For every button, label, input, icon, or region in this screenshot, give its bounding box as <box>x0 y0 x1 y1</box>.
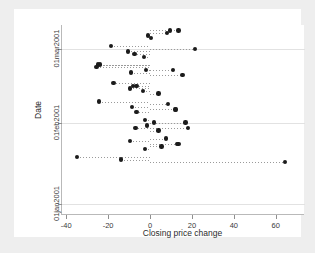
dropline <box>121 160 150 161</box>
dropline <box>131 73 150 74</box>
dropline <box>150 49 195 50</box>
dropline <box>132 107 150 108</box>
data-point <box>176 142 180 146</box>
data-point <box>109 44 113 48</box>
dropline <box>135 128 150 129</box>
x-tick <box>108 215 109 219</box>
dropline <box>97 67 150 68</box>
data-point <box>111 81 115 85</box>
dropline <box>99 102 150 103</box>
data-point <box>145 123 149 127</box>
data-point <box>166 102 170 106</box>
data-point <box>193 47 197 51</box>
data-point <box>97 99 101 103</box>
data-point <box>143 147 147 151</box>
data-point <box>174 107 178 111</box>
data-point <box>171 68 175 72</box>
data-point <box>156 128 160 132</box>
figure-canvas: 01jan200101feb200101mar2001 -40-20020406… <box>0 0 315 253</box>
data-point <box>186 126 190 130</box>
x-tick <box>66 215 67 219</box>
dropline <box>77 157 150 158</box>
data-point <box>75 155 79 159</box>
data-point <box>159 144 163 148</box>
dropline <box>150 162 285 163</box>
y-axis-title: Date <box>33 80 43 140</box>
data-point <box>142 55 146 59</box>
data-point <box>129 70 133 74</box>
dropline <box>130 88 150 89</box>
data-point <box>152 120 156 124</box>
x-tick <box>192 215 193 219</box>
data-point <box>149 36 153 40</box>
data-point <box>128 139 132 143</box>
data-point <box>183 120 187 124</box>
gridline <box>62 204 305 205</box>
graph-region: 01jan200101feb200101mar2001 -40-20020406… <box>14 9 301 237</box>
data-point <box>176 28 180 32</box>
data-point <box>165 31 169 35</box>
x-tick <box>234 215 235 219</box>
data-point <box>94 65 98 69</box>
data-point <box>156 91 160 95</box>
data-point <box>128 86 132 90</box>
dropline <box>150 30 178 31</box>
plot-area: 01jan200101feb200101mar2001 -40-20020406… <box>61 25 304 215</box>
y-tick-label: 01feb2001 <box>52 92 61 152</box>
dropline <box>150 70 173 71</box>
x-axis-title: Closing price change <box>61 228 304 238</box>
x-tick <box>150 215 151 219</box>
data-point <box>134 110 138 114</box>
data-point <box>180 73 184 77</box>
data-point <box>119 157 123 161</box>
data-point <box>130 105 134 109</box>
dropline <box>130 141 150 142</box>
data-point <box>141 89 145 93</box>
dropline <box>98 65 150 66</box>
data-point <box>283 160 287 164</box>
dropline <box>150 75 183 76</box>
dropline <box>111 46 150 47</box>
data-point <box>126 49 130 53</box>
data-point <box>164 136 168 140</box>
data-point <box>143 118 147 122</box>
data-point <box>132 52 136 56</box>
x-tick <box>276 215 277 219</box>
data-point <box>144 68 148 72</box>
data-point <box>134 84 138 88</box>
data-point <box>133 126 137 130</box>
y-tick-label: 01mar2001 <box>52 18 61 78</box>
